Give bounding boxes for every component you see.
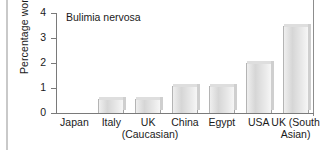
y-tick-4 — [51, 13, 56, 14]
left-frame-rule — [6, 0, 8, 150]
y-tick-3 — [51, 38, 56, 39]
x-axis-label: UK (South Asian) — [269, 117, 322, 140]
right-frame-rule — [313, 0, 314, 116]
y-tick-label-4: 4 — [26, 7, 46, 18]
y-tick-label-1: 1 — [26, 82, 46, 93]
y-axis-line — [56, 13, 57, 113]
y-tick-2 — [51, 63, 56, 64]
y-tick-label-3: 3 — [26, 32, 46, 43]
y-tick-label-2: 2 — [26, 57, 46, 68]
bar — [246, 63, 272, 113]
bar — [135, 99, 161, 113]
bar — [283, 26, 309, 114]
bar — [209, 86, 235, 114]
bar — [98, 99, 124, 113]
bar — [172, 86, 198, 114]
y-tick-label-0: 0 — [26, 107, 46, 118]
chart-figure: Percentage women 01234 Bulimia nervosa J… — [0, 0, 334, 150]
chart-title: Bulimia nervosa — [66, 11, 141, 23]
x-axis-line — [56, 113, 314, 114]
y-tick-0 — [51, 113, 56, 114]
y-tick-1 — [51, 88, 56, 89]
